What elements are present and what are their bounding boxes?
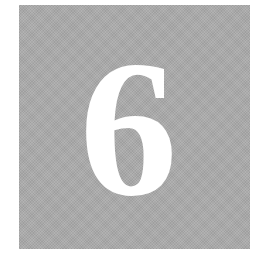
numeral-six: 6 bbox=[19, 5, 250, 249]
number-tile: 6 bbox=[19, 5, 250, 249]
